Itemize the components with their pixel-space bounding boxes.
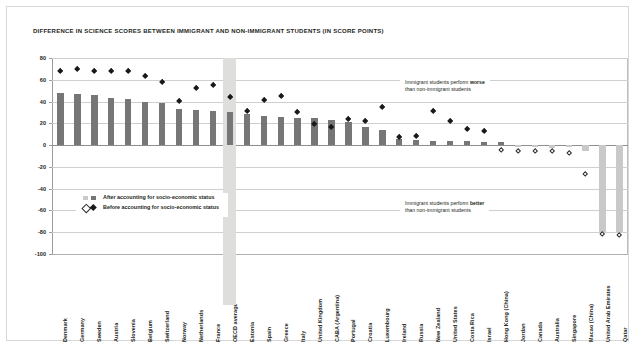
x-label-jordan: Jordan	[520, 323, 526, 342]
bar-after-russia	[413, 140, 419, 145]
x-label-belgium: Belgium	[147, 320, 153, 342]
gridline--100	[52, 254, 628, 255]
gridline-40	[52, 102, 628, 103]
x-label-austria: Austria	[113, 323, 119, 342]
y-tick-mark--60	[49, 210, 52, 211]
chart-legend: After accounting for socio-economic stat…	[76, 193, 228, 217]
diamond-before-germany	[74, 66, 80, 72]
bar-after-qatar	[616, 145, 622, 232]
bar-after-france	[210, 111, 216, 145]
y-tick-mark-60	[49, 80, 52, 81]
x-label-oecd-average: OECD average	[232, 303, 238, 342]
y-tick-mark--20	[49, 167, 52, 168]
y-tick-mark-40	[49, 102, 52, 103]
diamond-before-macao-china	[583, 171, 589, 177]
y-tick-label-0: 0	[0, 142, 46, 148]
y-tick-label--100: -100	[0, 251, 46, 257]
legend-swatch-dark-square	[91, 196, 96, 201]
x-label-spain: Spain	[266, 327, 272, 342]
diamond-before-greece	[278, 93, 284, 99]
bar-after-greece	[278, 117, 284, 145]
bar-after-hong-kong-china	[498, 142, 504, 145]
x-label-germany: Germany	[79, 318, 85, 342]
x-label-slovenia: Slovenia	[130, 319, 136, 342]
y-tick-label-40: 40	[0, 99, 46, 105]
x-label-switzerland: Switzerland	[164, 311, 170, 342]
y-tick-label--60: -60	[0, 207, 46, 213]
page-title: DIFFERENCE IN SCIENCE SCORES BETWEEN IMM…	[33, 28, 384, 34]
diamond-before-jordan	[515, 149, 521, 155]
bar-after-estonia	[244, 114, 250, 146]
bar-after-portugal	[345, 122, 351, 145]
diamond-before-russia	[413, 133, 419, 139]
y-tick-mark--80	[49, 232, 52, 233]
y-tick-label--20: -20	[0, 164, 46, 170]
diamond-before-denmark	[57, 68, 63, 74]
diamond-before-costa-rica	[464, 126, 470, 132]
diamond-before-singapore	[566, 150, 572, 156]
annotation-better: Immigrant students perform better than n…	[400, 197, 489, 217]
gridline-20	[52, 123, 628, 124]
bar-after-macao-china	[582, 145, 588, 150]
legend-swatch-light-square	[83, 196, 88, 201]
bar-after-slovenia	[125, 99, 131, 145]
y-tick-mark--100	[49, 254, 52, 255]
bar-after-israel	[481, 142, 487, 145]
gridline--80	[52, 232, 628, 233]
bar-after-spain	[261, 116, 267, 145]
x-label-new-zealand: New Zealand	[435, 308, 441, 342]
bar-after-netherlands	[193, 110, 199, 145]
diamond-before-norway	[176, 98, 182, 104]
x-label-croatia: Croatia	[367, 323, 373, 342]
bar-after-germany	[74, 94, 80, 145]
annotation-better-line1: Immigrant students perform better	[405, 200, 484, 207]
diamond-before-portugal	[345, 116, 351, 122]
diamond-before-sweden	[91, 68, 97, 74]
gridline-60	[52, 80, 628, 81]
plot-area	[52, 58, 628, 254]
x-label-hong-kong-china: Hong Kong (China)	[503, 291, 509, 342]
annotation-worse-line1: Immigrant students perform worse	[405, 79, 485, 86]
x-label-france: France	[215, 324, 221, 342]
legend-diamond-filled	[90, 204, 96, 210]
x-label-united-arab-emirates: United Arab Emirates	[605, 285, 611, 342]
diamond-before-netherlands	[193, 85, 199, 91]
diamond-before-austria	[108, 68, 114, 74]
y-tick-label--40: -40	[0, 186, 46, 192]
x-label-norway: Norway	[181, 322, 187, 342]
x-label-netherlands: Netherlands	[198, 310, 204, 342]
y-tick-label-80: 80	[0, 55, 46, 61]
diamond-before-qatar	[616, 232, 622, 238]
bar-after-austria	[108, 98, 114, 145]
annotation-worse-emphasis: worse	[470, 79, 485, 85]
annotation-better-line2: than non-immigrant students	[405, 207, 484, 214]
x-label-israel: Israel	[486, 327, 492, 342]
diamond-before-canada	[532, 149, 538, 155]
x-label-sweden: Sweden	[96, 321, 102, 342]
x-label-united-states: United States	[452, 306, 458, 342]
bar-after-united-arab-emirates	[599, 145, 605, 232]
y-tick-label-60: 60	[0, 77, 46, 83]
legend-label-before: Before accounting for socio-economic sta…	[103, 204, 219, 210]
x-label-ireland: Ireland	[401, 324, 407, 342]
annotation-better-emphasis: better	[470, 200, 484, 206]
x-label-estonia: Estonia	[249, 322, 255, 342]
bar-after-luxembourg	[379, 130, 385, 145]
y-tick-label--80: -80	[0, 229, 46, 235]
x-label-luxembourg: Luxembourg	[384, 308, 390, 342]
diamond-before-belgium	[142, 73, 148, 79]
x-label-united-kingdom: United Kingdom	[317, 299, 323, 342]
bar-after-united-states	[447, 141, 453, 145]
diamond-before-australia	[549, 149, 555, 155]
gridline--20	[52, 167, 628, 168]
bar-after-new-zealand	[430, 141, 436, 145]
bar-after-sweden	[91, 95, 97, 145]
x-label-australia: Australia	[554, 318, 560, 342]
bar-after-italy	[294, 118, 300, 145]
legend-label-after: After accounting for socio-economic stat…	[103, 194, 214, 200]
bar-after-croatia	[362, 127, 368, 146]
legend-diamond-hollow	[81, 203, 90, 212]
x-label-singapore: Singapore	[571, 315, 577, 342]
x-label-denmark: Denmark	[62, 318, 68, 342]
x-label-macao-china: Macao (China)	[588, 304, 594, 342]
